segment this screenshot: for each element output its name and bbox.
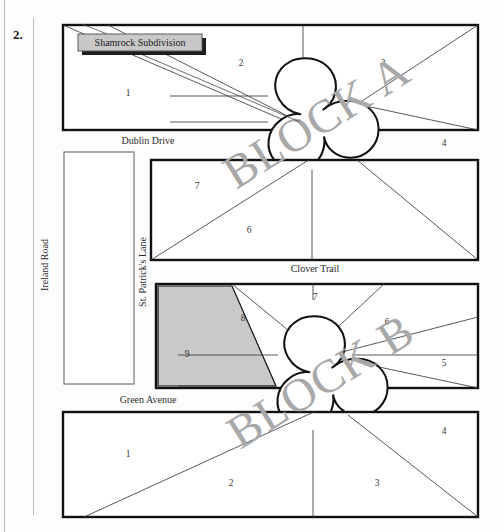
lot-number: 7 bbox=[195, 181, 200, 191]
lot-number: 3 bbox=[375, 478, 380, 488]
question-number: 2. bbox=[13, 27, 23, 42]
street-label-st-patricks-lane: St. Patrick's Lane bbox=[137, 237, 148, 307]
subdivision-map-figure: 2. Ireland Road St. Patrick's Lane 1 2 3… bbox=[0, 0, 504, 532]
lot-number: 5 bbox=[442, 358, 447, 368]
lot-number: 4 bbox=[442, 426, 447, 436]
callout-label: Shamrock Subdivision bbox=[95, 37, 186, 48]
lot-number: 2 bbox=[239, 58, 244, 68]
block-a-south-outline bbox=[151, 160, 478, 260]
lot-number: 1 bbox=[126, 88, 131, 98]
lot-number: 2 bbox=[229, 478, 234, 488]
blank-parcel bbox=[64, 152, 134, 384]
street-label-dublin-drive: Dublin Drive bbox=[121, 135, 175, 146]
lot-number: 9 bbox=[185, 349, 190, 359]
lot-number: 1 bbox=[126, 449, 131, 459]
street-label-clover-trail: Clover Trail bbox=[291, 263, 340, 274]
street-label-green-avenue: Green Avenue bbox=[120, 394, 177, 405]
lot-number: 7 bbox=[313, 292, 318, 302]
street-label-ireland-road: Ireland Road bbox=[39, 239, 50, 291]
lot-number: 8 bbox=[241, 313, 246, 323]
map-canvas: 2. Ireland Road St. Patrick's Lane 1 2 3… bbox=[0, 0, 504, 532]
lot-number: 4 bbox=[442, 138, 447, 148]
lot-number: 6 bbox=[247, 225, 252, 235]
